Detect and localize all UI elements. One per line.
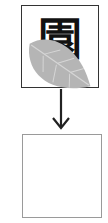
empty-target-box [22,134,102,218]
